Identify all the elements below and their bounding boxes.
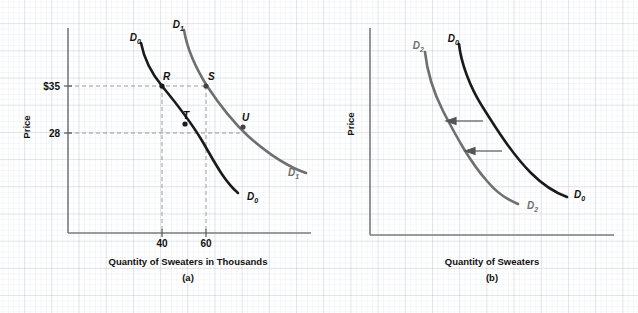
panel-a-curve-label-d0-bottom: D0 [247, 191, 258, 204]
panel-a-curve-d1 [184, 30, 306, 173]
point-U [240, 124, 245, 129]
point-label-T: T [183, 110, 190, 121]
point-R [159, 83, 164, 88]
panel-a-curve-label-d0-top: D0 [130, 32, 141, 45]
svg-text:D0: D0 [130, 32, 141, 45]
shift-arrow-lower-icon [465, 148, 502, 155]
panel-b-curve-label-d2-top: D2 [413, 40, 424, 53]
point-S [203, 83, 208, 88]
x-tick-label-40: 40 [156, 238, 168, 249]
panel-b-y-axis-title: Price [345, 112, 356, 135]
panel-b-curve-label-d2-bottom: D2 [527, 200, 538, 213]
panel-a-ticks [64, 86, 206, 237]
svg-text:D2: D2 [527, 200, 538, 213]
svg-text:D0: D0 [247, 191, 258, 204]
panel-a-guidelines [68, 86, 248, 233]
svg-text:D0: D0 [574, 189, 585, 202]
point-label-S: S [208, 71, 215, 82]
shift-arrow-upper-icon [446, 118, 483, 125]
svg-text:D2: D2 [413, 40, 424, 53]
panel-b-axes [370, 28, 614, 235]
panel-a-curve-d0 [141, 43, 238, 193]
panel-b-letter: (b) [486, 272, 498, 283]
svg-text:D1: D1 [173, 19, 184, 32]
x-tick-label-60: 60 [200, 238, 212, 249]
y-tick-label-35: $35 [43, 81, 60, 92]
panel-a-data-points [159, 83, 245, 129]
panel-b-curve-label-d0-bottom: D0 [574, 189, 585, 202]
point-label-R: R [163, 71, 171, 82]
panel-a-letter: (a) [182, 272, 194, 283]
demand-shift-figure: R S T U D0 D1 D0 D1 $35 28 40 60 Price Q… [0, 0, 638, 313]
panel-b-curve-label-d0-top: D0 [448, 33, 459, 46]
panel-b-x-axis-title: Quantity of Sweaters [445, 256, 540, 267]
panel-a-axes [68, 28, 311, 233]
y-tick-label-28: 28 [49, 128, 61, 139]
panel-a-plot: R S T U D0 D1 D0 D1 $35 28 40 60 Price Q… [0, 0, 638, 313]
panel-b-curve-d2 [425, 52, 518, 204]
panel-a-curve-label-d1-top: D1 [173, 19, 184, 32]
panel-a-y-axis-title: Price [21, 115, 32, 138]
panel-a-x-axis-title: Quantity of Sweaters in Thousands [109, 256, 268, 267]
point-label-U: U [242, 112, 250, 123]
point-T [182, 121, 187, 126]
svg-text:D0: D0 [448, 33, 459, 46]
